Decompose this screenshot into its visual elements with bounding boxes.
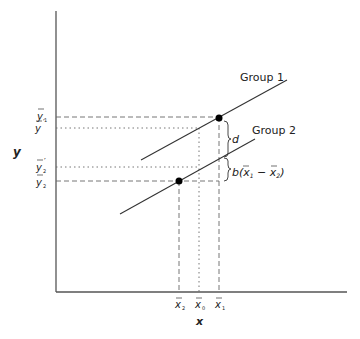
x-tick-x1: x 1 [214, 298, 225, 311]
x-tick-x2: x 2 [174, 298, 185, 311]
svg-text:2: 2 [43, 183, 46, 189]
regression-diagram: Group 1 Group 2 d b(x1 − x2) y x y 1 y ′… [0, 0, 360, 339]
x-tick-x0: x 0 [194, 298, 205, 311]
svg-text:x: x [214, 299, 221, 310]
svg-text:y: y [34, 123, 42, 134]
group2-mean-point [176, 178, 183, 185]
group1-label: Group 1 [240, 71, 284, 84]
svg-text:x: x [194, 299, 201, 310]
group1-line [141, 80, 287, 160]
svg-text:′: ′ [43, 119, 45, 128]
group2-label: Group 2 [252, 124, 296, 137]
svg-text:0: 0 [202, 305, 205, 311]
brace-d [224, 121, 231, 157]
svg-text:2: 2 [43, 168, 46, 174]
svg-text:y: y [35, 162, 43, 173]
group1-mean-point [216, 115, 223, 122]
svg-text:2: 2 [182, 305, 185, 311]
svg-text:1: 1 [222, 305, 225, 311]
y-tick-y1-prime: y ′ [34, 119, 45, 134]
x-axis-label: x [195, 315, 204, 328]
y-tick-y2: y 2 [35, 175, 46, 189]
d-label: d [232, 133, 240, 146]
y-tick-y2-prime: y 2 ′ [35, 158, 46, 174]
y-axis-label: y [13, 145, 22, 159]
brace-b [224, 158, 231, 181]
b-diff-label: b(x1 − x2) [232, 166, 284, 179]
svg-text:′: ′ [44, 158, 46, 167]
svg-text:y: y [35, 177, 43, 188]
svg-text:x: x [174, 299, 181, 310]
